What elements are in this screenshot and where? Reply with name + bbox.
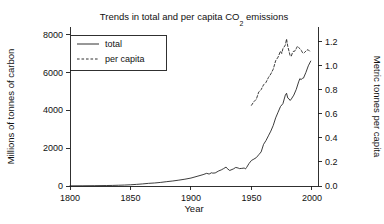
series-line-total [70,61,311,186]
x-tick-label: 1800 [60,193,80,203]
y-axis-title: Millions of tonnes of carbon [5,49,16,165]
legend-label-total: total [105,39,122,49]
legend-label-per-capita: per capita [105,54,145,64]
y-tick-label: 0 [58,181,63,191]
chart-title: Trends in total and per capita CO2 emiss… [100,11,289,27]
y2-tick-label: 0.6 [325,109,338,119]
y2-tick-label: 1.2 [325,37,338,47]
x-tick-label: 1900 [181,193,201,203]
y2-tick-label: 0.0 [325,181,338,191]
y-tick-label: 2000 [43,143,63,153]
co2-emissions-line-chart: 18001850190019502000Year0200040006000800… [0,0,384,224]
y2-tick-label: 1.0 [325,61,338,71]
series-line-per-capita [251,39,310,105]
y2-axis-title: Metric tonnes per capita [372,56,383,158]
y2-tick-label: 0.8 [325,85,338,95]
y-tick-label: 6000 [43,68,63,78]
y-tick-label: 8000 [43,30,63,40]
y-tick-label: 4000 [43,105,63,115]
x-tick-label: 1850 [120,193,140,203]
y2-tick-label: 0.2 [325,157,338,167]
x-tick-label: 2000 [302,193,322,203]
x-tick-label: 1950 [241,193,261,203]
y2-tick-label: 0.4 [325,133,338,143]
x-axis-title: Year [184,203,203,214]
chart-container: 18001850190019502000Year0200040006000800… [0,0,384,224]
